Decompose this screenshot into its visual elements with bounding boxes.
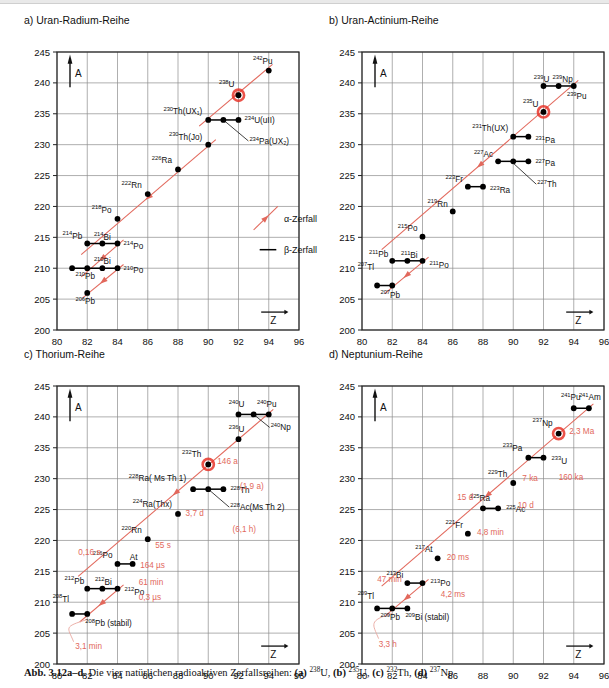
nuclide-label: 232Th xyxy=(182,449,202,459)
nuclide-point[interactable] xyxy=(266,412,272,418)
figure-caption: Abb. 3.12a–d. Die vier natürlichen radio… xyxy=(24,665,594,679)
y-axis-tick-label: 210 xyxy=(34,597,50,608)
nuclide-label: At xyxy=(130,553,138,562)
nuclide-point[interactable] xyxy=(420,580,426,586)
nuclide-point[interactable] xyxy=(374,606,380,612)
nuclide-point[interactable] xyxy=(404,606,410,612)
nuclide-label: 208Pb (stabil) xyxy=(85,618,132,628)
nuclide-label: 240Np xyxy=(271,422,292,432)
y-axis-tick-label: 230 xyxy=(339,473,355,484)
nuclide-point[interactable] xyxy=(115,586,121,592)
nuclide-point[interactable] xyxy=(571,405,577,411)
nuclide-point[interactable] xyxy=(115,241,121,247)
y-axis-tick-label: 245 xyxy=(34,381,50,392)
nuclide-point[interactable] xyxy=(115,216,121,222)
nuclide-point[interactable] xyxy=(145,536,151,542)
nuclide-label: 218Po xyxy=(92,204,112,214)
y-axis-tick-label: 235 xyxy=(34,108,50,119)
nuclide-point[interactable] xyxy=(84,241,90,247)
x-axis-tick-label: 86 xyxy=(447,336,458,347)
nuclide-point[interactable] xyxy=(175,166,181,172)
nuclide-point[interactable] xyxy=(236,436,242,442)
nuclide-point[interactable] xyxy=(266,68,272,74)
nuclide-point[interactable] xyxy=(404,580,410,586)
nuclide-point[interactable] xyxy=(556,83,562,89)
y-axis-tick-label: 215 xyxy=(34,566,50,577)
nuclide-point[interactable] xyxy=(420,234,426,240)
nuclide-point[interactable] xyxy=(115,265,121,271)
y-axis-tick-label: 225 xyxy=(339,504,355,515)
nuclide-label: 223Fr xyxy=(445,174,463,184)
nuclide-point[interactable] xyxy=(510,134,516,140)
nuclide-point[interactable] xyxy=(480,184,486,190)
y-axis-tick-label: 230 xyxy=(339,139,355,150)
half-life-annotation: 3,7 d xyxy=(186,509,205,518)
nuclide-point[interactable] xyxy=(389,606,395,612)
caption-tag: (c) xyxy=(370,667,387,678)
nuclide-point[interactable] xyxy=(480,505,486,511)
nuclide-point[interactable] xyxy=(115,561,121,567)
nuclide-point[interactable] xyxy=(205,117,211,123)
x-axis-tick-label: 94 xyxy=(263,336,274,347)
nuclide-point[interactable] xyxy=(525,455,531,461)
nuclide-point[interactable] xyxy=(84,586,90,592)
nuclide-point[interactable] xyxy=(586,405,592,411)
chart-c: 2002052102152202252302352402458082848688… xyxy=(0,362,305,682)
nuclide-point[interactable] xyxy=(450,208,456,214)
nuclide-point[interactable] xyxy=(389,283,395,289)
y-axis-tick-label: 220 xyxy=(339,535,355,546)
nuclide-point[interactable] xyxy=(435,555,441,561)
panel-a-title: a) Uran-Radium-Reihe xyxy=(24,14,130,26)
x-axis-tick-label: 96 xyxy=(599,336,609,347)
nuclide-label: 241Am xyxy=(579,392,601,402)
nuclide-point[interactable] xyxy=(175,511,181,517)
x-axis-tick-label: 80 xyxy=(52,336,63,347)
nuclide-point[interactable] xyxy=(236,117,242,123)
nuclide-point[interactable] xyxy=(205,462,211,468)
nuclide-point[interactable] xyxy=(220,486,226,492)
caption-symbol: Th, xyxy=(397,667,411,678)
nuclide-point[interactable] xyxy=(84,290,90,296)
nuclide-point[interactable] xyxy=(236,412,242,418)
nuclide-point[interactable] xyxy=(205,142,211,148)
nuclide-point[interactable] xyxy=(69,611,75,617)
nuclide-point[interactable] xyxy=(374,283,380,289)
nuclide-point[interactable] xyxy=(84,265,90,271)
nuclide-label: 214Bi xyxy=(94,231,111,241)
nuclide-point[interactable] xyxy=(465,531,471,537)
z-axis-label: Z xyxy=(575,315,581,326)
y-axis-tick-label: 235 xyxy=(34,442,50,453)
half-life-annotation: 20 ms xyxy=(447,553,469,562)
half-life-annotation: 4,8 min xyxy=(477,528,504,537)
y-axis-tick-label: 225 xyxy=(339,170,355,181)
nuclide-point[interactable] xyxy=(236,92,242,98)
y-axis-tick-label: 205 xyxy=(339,628,355,639)
nuclide-point[interactable] xyxy=(525,158,531,164)
half-life-annotation: 47 min xyxy=(377,575,402,584)
y-axis-tick-label: 240 xyxy=(339,77,355,88)
nuclide-point[interactable] xyxy=(420,258,426,264)
y-axis-tick-label: 215 xyxy=(339,566,355,577)
nuclide-point[interactable] xyxy=(495,158,501,164)
nuclide-point[interactable] xyxy=(510,480,516,486)
nuclide-point[interactable] xyxy=(541,109,547,115)
nuclide-point[interactable] xyxy=(389,258,395,264)
nuclide-point[interactable] xyxy=(69,265,75,271)
y-axis-tick-label: 245 xyxy=(339,381,355,392)
a-axis-arrowhead xyxy=(68,54,73,63)
y-axis-tick-label: 235 xyxy=(339,108,355,119)
caption-mass-number: 238 xyxy=(309,665,320,673)
nuclide-point[interactable] xyxy=(465,184,471,190)
nuclide-point[interactable] xyxy=(145,191,151,197)
half-life-annotation: 146 a xyxy=(217,457,238,466)
nuclide-point[interactable] xyxy=(525,134,531,140)
nuclide-point[interactable] xyxy=(556,431,562,437)
nuclide-point[interactable] xyxy=(190,486,196,492)
nuclide-point[interactable] xyxy=(541,455,547,461)
nuclide-point[interactable] xyxy=(84,611,90,617)
nuclide-label: 230Th(Jo) xyxy=(169,131,203,141)
nuclide-point[interactable] xyxy=(495,505,501,511)
nuclide-label: 209Tl xyxy=(358,590,375,600)
panel-b-plot: 2002052102152202252302352402458082848688… xyxy=(305,28,609,348)
x-axis-tick-label: 84 xyxy=(417,336,428,347)
